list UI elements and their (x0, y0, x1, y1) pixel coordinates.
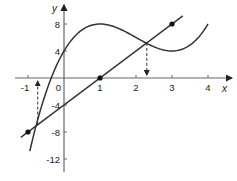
y-tick-label: 4 (55, 46, 60, 57)
y-tick-label: -8 (52, 127, 60, 138)
x-tick-label: -1 (21, 82, 29, 93)
marked-point (25, 129, 30, 134)
chart: xy -112340-12-8-448 (0, 0, 237, 181)
x-tick-label: 2 (133, 82, 138, 93)
tick-labels: -112340-12-8-448 (21, 19, 211, 165)
x-tick-label: 1 (97, 82, 102, 93)
y-axis-label: y (51, 3, 58, 14)
origin-label: 0 (56, 82, 61, 93)
marked-point (97, 75, 102, 80)
x-tick-label: 4 (205, 82, 210, 93)
x-axis-label: x (221, 83, 228, 94)
plot-area (21, 16, 208, 151)
marked-point (169, 21, 174, 26)
y-tick-label: -12 (46, 154, 60, 165)
y-tick-label: 8 (55, 19, 60, 30)
x-tick-label: 3 (169, 82, 174, 93)
